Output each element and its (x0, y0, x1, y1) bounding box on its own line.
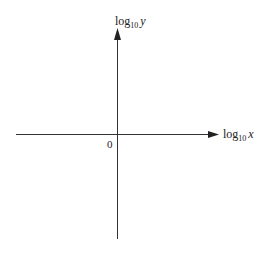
x-axis-arrowhead-icon (208, 131, 219, 138)
axes-diagram: log10y log10x 0 (0, 0, 261, 253)
y-axis-label: log10y (115, 14, 146, 30)
y-axis-arrowhead-icon (114, 28, 121, 40)
origin-label: 0 (107, 138, 113, 150)
x-axis-label: log10x (223, 127, 254, 143)
